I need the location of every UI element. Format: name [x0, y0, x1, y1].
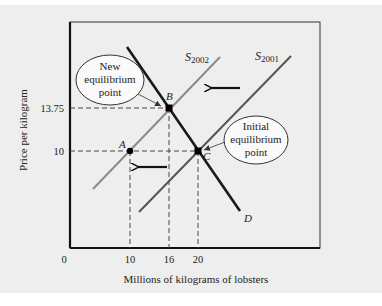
x-tick-10: 10: [125, 254, 136, 265]
init-eq-label-2: equilibrium: [230, 133, 282, 145]
init-eq-label-3: point: [245, 146, 268, 158]
s2002-label: S2002: [185, 50, 209, 65]
new-eq-label-2: equilibrium: [84, 73, 136, 85]
y-tick-13-75: 13.75: [40, 103, 64, 114]
init-eq-label-1: Initial: [243, 120, 269, 132]
point-b-label: B: [166, 90, 173, 102]
point-a-label: A: [118, 138, 126, 150]
s2001-label: S2001: [255, 49, 279, 64]
point-c-marker: [195, 148, 202, 155]
y-axis-title: Price per kilogram: [17, 89, 29, 171]
new-eq-label-3: point: [99, 86, 122, 98]
point-a-marker: [127, 148, 133, 154]
x-axis-title: Millions of kilograms of lobsters: [124, 273, 269, 285]
x-tick-20: 20: [193, 254, 204, 265]
point-b-marker: [166, 105, 173, 112]
supply-demand-chart: New equilibrium point Initial equilibriu…: [0, 0, 382, 306]
demand-label: D: [243, 212, 252, 224]
y-tick-10: 10: [54, 146, 65, 157]
demand-curve: [127, 47, 240, 211]
new-eq-label-1: New: [100, 60, 121, 72]
x-tick-16: 16: [164, 254, 175, 265]
guide-lines: [70, 108, 198, 248]
point-c-label: C: [203, 150, 211, 162]
x-tick-0: 0: [61, 254, 66, 265]
new-equilibrium-pointer: [138, 94, 161, 106]
